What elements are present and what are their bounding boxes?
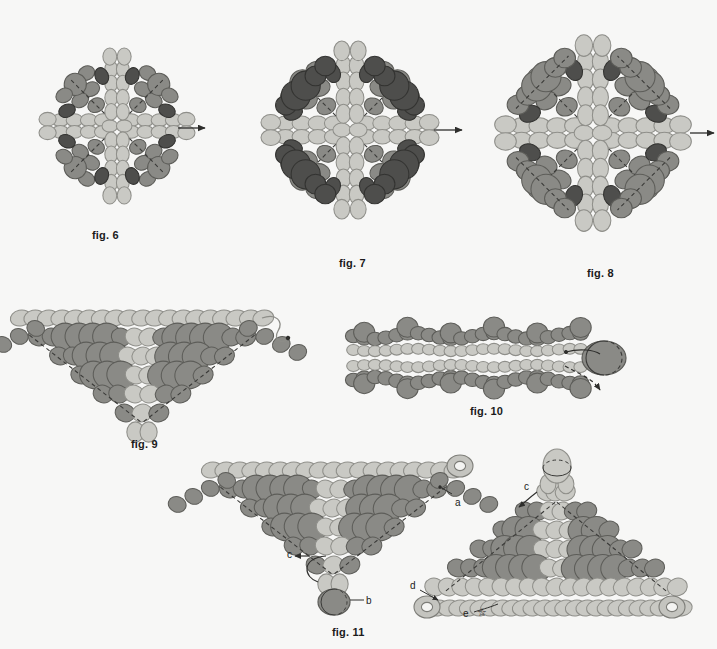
- bead-tip-e: [419, 130, 439, 146]
- callout-e: e: [463, 608, 469, 619]
- bead-tip-e: [670, 133, 692, 151]
- callout-a: a: [455, 497, 461, 508]
- tip-bead-b: [318, 589, 350, 615]
- bead-tip-n: [593, 35, 611, 57]
- bead-tip-s: [350, 199, 366, 219]
- callout-c-left: c: [287, 549, 292, 560]
- bead-tip-w: [39, 126, 56, 140]
- bead-feature-bottom: [570, 379, 591, 399]
- diagram-canvas: fig. 6 fig. 7 fig. 8 fig. 9 fig. 10 fig.…: [0, 0, 717, 649]
- bead-arm-v: [105, 103, 118, 120]
- bead-tip-s: [593, 210, 611, 232]
- bead-arm-v: [349, 104, 364, 123]
- bead-tip-e: [670, 116, 692, 134]
- bead-center: [102, 120, 118, 132]
- fig-label-fig9: fig. 9: [131, 438, 158, 450]
- bead-tip-w: [495, 133, 517, 151]
- bead-tip-s: [575, 210, 593, 232]
- fig-label-fig8: fig. 8: [587, 267, 614, 279]
- bead-feature-top: [570, 318, 591, 338]
- beadwork-illustration: [0, 0, 717, 649]
- bead-tip-s: [103, 187, 117, 204]
- bead-center: [333, 123, 351, 137]
- bead-tip-n: [103, 48, 117, 65]
- bead-center: [574, 125, 594, 140]
- bead-tip-n: [117, 48, 131, 65]
- bead-outer-round: [364, 56, 385, 76]
- top-bead-fig11-right: [543, 449, 571, 483]
- bead-tip-w: [39, 112, 56, 126]
- ring-bead-right-end: [659, 596, 685, 618]
- bead-outer-round: [554, 198, 576, 218]
- bead-center: [116, 120, 132, 132]
- bead-outer-round: [610, 48, 632, 68]
- bead-tip-s: [334, 199, 350, 219]
- callout-b: b: [366, 595, 372, 606]
- bead-tip-w: [261, 114, 281, 130]
- bead-arm-v: [336, 104, 351, 123]
- callout-d: d: [410, 580, 416, 591]
- end-bead-fig10: [582, 341, 626, 375]
- bead-outer-round: [610, 198, 632, 218]
- bead-tip-n: [575, 35, 593, 57]
- bead-tip-e: [178, 112, 195, 126]
- bead-outer-round: [554, 48, 576, 68]
- bead-tip-w: [261, 130, 281, 146]
- ring-bead-a: [447, 455, 473, 477]
- bead-tip-n: [350, 41, 366, 61]
- callout-c-right: c: [524, 481, 529, 492]
- fig-label-fig6: fig. 6: [92, 229, 119, 241]
- bead-center: [592, 125, 612, 140]
- bead-tip-w: [495, 116, 517, 134]
- bead-tip-n: [334, 41, 350, 61]
- star-marker: ☆: [477, 606, 487, 619]
- bead-tip-e: [419, 114, 439, 130]
- bead-tip-s: [117, 187, 131, 204]
- bead-outer-round: [364, 184, 385, 204]
- bead-outer-round: [315, 184, 336, 204]
- bead-center: [349, 123, 367, 137]
- bead-arm-v: [578, 105, 594, 126]
- fig-label-fig10: fig. 10: [470, 405, 503, 417]
- fig-label-fig7: fig. 7: [339, 257, 366, 269]
- bead-arm-v: [116, 103, 129, 120]
- bead-outer-round: [315, 56, 336, 76]
- bead-arm-v: [592, 105, 608, 126]
- fig-label-fig11: fig. 11: [332, 626, 365, 638]
